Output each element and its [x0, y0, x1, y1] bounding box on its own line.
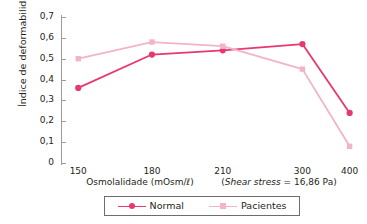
- y-tick-label: 0,4: [28, 75, 54, 84]
- data-point: [76, 56, 81, 61]
- y-tick-label: 0,2: [28, 116, 54, 125]
- x-tick-label: 300: [294, 166, 311, 176]
- series-layer: [62, 17, 357, 163]
- data-point: [149, 51, 155, 57]
- x-tick-label: 400: [341, 166, 358, 176]
- y-tick-label: 0,1: [28, 137, 54, 146]
- legend-marker-pacientes: [209, 202, 237, 211]
- legend-label-pacientes: Pacientes: [241, 201, 286, 211]
- legend-label-normal: Normal: [150, 201, 184, 211]
- y-tick-label: 0,3: [28, 95, 54, 104]
- x-axis-note: (Shear stress = 16,86 Pa): [206, 177, 352, 187]
- y-tick-label: 0,6: [28, 33, 54, 42]
- x-tick-label: 150: [70, 166, 87, 176]
- data-point: [75, 85, 81, 91]
- chart-figure: Índice de deformabilidade 00,10,20,30,40…: [0, 0, 367, 224]
- series-line-pacientes: [78, 42, 349, 146]
- y-tick: [62, 163, 66, 164]
- legend-item-normal[interactable]: Normal: [118, 201, 184, 211]
- data-point: [220, 44, 225, 49]
- y-axis-title: Índice de deformabilidade: [18, 0, 28, 115]
- chart-legend: Normal Pacientes: [104, 196, 300, 216]
- data-point: [299, 41, 305, 47]
- y-tick-label: 0,7: [28, 12, 54, 21]
- x-axis-note-italic: Shear stress: [225, 177, 281, 187]
- y-tick-label: 0,5: [28, 54, 54, 63]
- data-point: [149, 39, 154, 44]
- legend-item-pacientes[interactable]: Pacientes: [209, 201, 286, 211]
- data-point: [300, 66, 305, 71]
- x-axis-note-rest: = 16,86 Pa): [281, 177, 337, 187]
- plot-area: [62, 17, 357, 163]
- x-tick-label: 180: [143, 166, 160, 176]
- data-point: [347, 110, 353, 116]
- y-tick-label: 0: [28, 158, 54, 167]
- x-axis-title: Osmolalidade (mOsm/ℓ): [62, 177, 218, 187]
- x-tick-label: 210: [214, 166, 231, 176]
- legend-marker-normal: [118, 202, 146, 211]
- data-point: [347, 144, 352, 149]
